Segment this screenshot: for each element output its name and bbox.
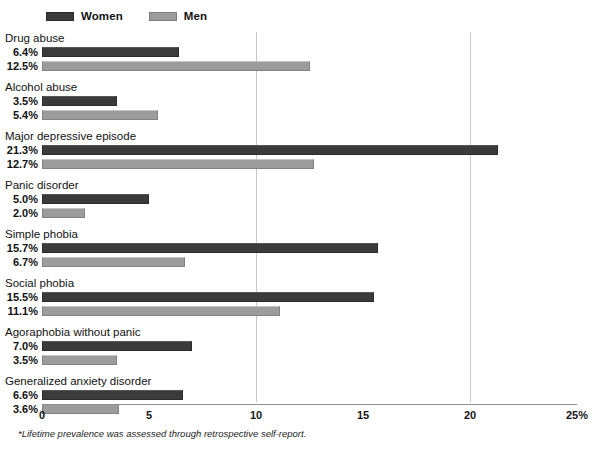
bar-value-label-women: 7.0% — [0, 340, 38, 352]
bar-row-women: 7.0% — [0, 341, 601, 353]
axis-tick-label: 0 — [39, 409, 45, 421]
bar-row-men: 12.7% — [0, 159, 601, 171]
bar-women — [42, 243, 378, 253]
bar-row-women: 15.7% — [0, 243, 601, 255]
bar-women — [42, 194, 149, 204]
axis-tick-label: 20 — [464, 409, 476, 421]
bar-row-women: 21.3% — [0, 145, 601, 157]
legend-entry-men: Men — [149, 10, 207, 22]
bar-group: Agoraphobia without panic7.0%3.5% — [0, 326, 601, 367]
group-title: Drug abuse — [5, 32, 601, 45]
bar-value-label-women: 15.5% — [0, 291, 38, 303]
bar-men — [42, 257, 185, 267]
bar-men — [42, 61, 310, 71]
legend-entry-women: Women — [46, 10, 123, 22]
bar-women — [42, 96, 117, 106]
prevalence-bar-chart: Women Men Drug abuse6.4%12.5%Alcohol abu… — [0, 0, 601, 452]
bar-row-men: 11.1% — [0, 306, 601, 318]
bar-group: Drug abuse6.4%12.5% — [0, 32, 601, 73]
axis-tick-label: 15 — [357, 409, 369, 421]
bar-women — [42, 341, 192, 351]
bar-group: Social phobia15.5%11.1% — [0, 277, 601, 318]
bar-value-label-women: 5.0% — [0, 193, 38, 205]
bar-value-label-men: 11.1% — [0, 305, 38, 317]
bar-row-men: 3.5% — [0, 355, 601, 367]
group-title: Panic disorder — [5, 179, 601, 192]
bar-women — [42, 292, 374, 302]
bar-value-label-women: 3.5% — [0, 95, 38, 107]
bar-row-men: 2.0% — [0, 208, 601, 220]
plot-area: Drug abuse6.4%12.5%Alcohol abuse3.5%5.4%… — [0, 32, 601, 402]
legend-label-women: Women — [81, 10, 123, 22]
bar-value-label-men: 12.7% — [0, 158, 38, 170]
bar-value-label-men: 3.5% — [0, 354, 38, 366]
bar-men — [42, 159, 314, 169]
bar-women — [42, 47, 179, 57]
bar-row-women: 3.5% — [0, 96, 601, 108]
bar-group: Simple phobia15.7%6.7% — [0, 228, 601, 269]
bar-row-men: 5.4% — [0, 110, 601, 122]
chart-legend: Women Men — [46, 10, 207, 22]
axis-tick-label: 25% — [566, 409, 588, 421]
bar-group: Alcohol abuse3.5%5.4% — [0, 81, 601, 122]
x-axis: 0510152025% — [0, 404, 601, 428]
chart-footnote: *Lifetime prevalence was assessed throug… — [18, 428, 306, 439]
bar-value-label-women: 15.7% — [0, 242, 38, 254]
group-title: Simple phobia — [5, 228, 601, 241]
group-title: Social phobia — [5, 277, 601, 290]
bar-row-women: 6.6% — [0, 390, 601, 402]
bar-men — [42, 110, 158, 120]
bar-men — [42, 208, 85, 218]
bar-row-women: 6.4% — [0, 47, 601, 59]
legend-swatch-men-icon — [149, 12, 177, 21]
bar-group: Major depressive episode21.3%12.7% — [0, 130, 601, 171]
bar-value-label-women: 6.6% — [0, 389, 38, 401]
bar-row-women: 15.5% — [0, 292, 601, 304]
legend-label-men: Men — [184, 10, 207, 22]
bar-men — [42, 355, 117, 365]
axis-tick-label: 5 — [146, 409, 152, 421]
bar-value-label-men: 12.5% — [0, 60, 38, 72]
bar-group: Panic disorder5.0%2.0% — [0, 179, 601, 220]
bar-women — [42, 145, 498, 155]
bar-men — [42, 306, 280, 316]
bar-value-label-women: 21.3% — [0, 144, 38, 156]
axis-tick-label: 10 — [250, 409, 262, 421]
bar-row-men: 12.5% — [0, 61, 601, 73]
bar-row-women: 5.0% — [0, 194, 601, 206]
bar-value-label-women: 6.4% — [0, 46, 38, 58]
group-title: Major depressive episode — [5, 130, 601, 143]
group-title: Generalized anxiety disorder — [5, 375, 601, 388]
bar-value-label-men: 5.4% — [0, 109, 38, 121]
bar-value-label-men: 2.0% — [0, 207, 38, 219]
bar-value-label-men: 6.7% — [0, 256, 38, 268]
group-title: Alcohol abuse — [5, 81, 601, 94]
x-axis-line — [42, 404, 577, 405]
group-title: Agoraphobia without panic — [5, 326, 601, 339]
bar-women — [42, 390, 183, 400]
bar-groups: Drug abuse6.4%12.5%Alcohol abuse3.5%5.4%… — [0, 32, 601, 424]
legend-swatch-women-icon — [46, 12, 74, 21]
bar-row-men: 6.7% — [0, 257, 601, 269]
